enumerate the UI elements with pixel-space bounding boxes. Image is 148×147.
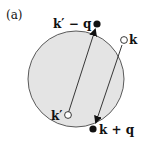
label-k: k (129, 33, 138, 47)
label-kprime: k′ (51, 109, 62, 123)
filled-dot-kminusq (93, 20, 100, 27)
scattering-diagram: (a) k′ − q k k′ k + q (0, 0, 148, 147)
label-kplusq: k + q (99, 123, 135, 137)
open-dot-k (121, 37, 128, 44)
open-dot-kprime (65, 112, 72, 119)
label-kminusq: k′ − q (53, 17, 92, 31)
panel-label: (a) (6, 8, 23, 22)
filled-dot-kplusq (89, 125, 96, 132)
fermi-sphere (28, 31, 124, 127)
